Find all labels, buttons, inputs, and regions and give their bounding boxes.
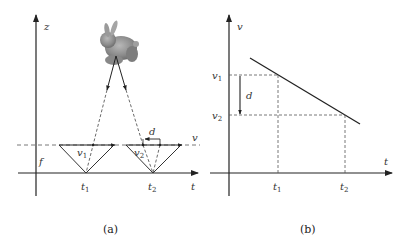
trajectory-line bbox=[250, 58, 360, 124]
t1-tick-label: t1 bbox=[273, 181, 282, 194]
v1-tick-label: v1 bbox=[212, 70, 222, 83]
v1-label-a: v1 bbox=[77, 147, 87, 160]
bunny-object bbox=[100, 20, 139, 65]
t2-tick-label: t2 bbox=[340, 181, 349, 194]
v-line-label: v bbox=[192, 132, 198, 143]
ray-1-dashed bbox=[86, 90, 107, 173]
ray-2-dashed bbox=[126, 90, 143, 145]
disparity-label-b: d bbox=[246, 90, 252, 101]
v2-tick-label: v2 bbox=[212, 110, 222, 123]
t-axis-label-a: t bbox=[191, 181, 196, 192]
disparity-bracket-a bbox=[143, 139, 160, 145]
panel-b: v t d v1 v2 t1 t2 (b) bbox=[210, 15, 392, 236]
caption-a: (a) bbox=[103, 223, 118, 236]
focal-length-label: f bbox=[38, 156, 45, 167]
t1-label-a: t1 bbox=[81, 181, 90, 194]
t-axis-label-b: t bbox=[384, 156, 389, 167]
z-axis-label: z bbox=[43, 21, 50, 32]
caption-b: (b) bbox=[300, 223, 316, 236]
t2-label-a: t2 bbox=[148, 181, 157, 194]
panel-a: z t v f v1 t1 bbox=[17, 15, 200, 236]
v-axis-label: v bbox=[237, 21, 243, 32]
figure: z t v f v1 t1 bbox=[0, 0, 406, 248]
disparity-label-a: d bbox=[149, 126, 155, 137]
v2-label-a: v2 bbox=[134, 147, 144, 160]
ray-2-dashed-lower bbox=[143, 145, 153, 173]
